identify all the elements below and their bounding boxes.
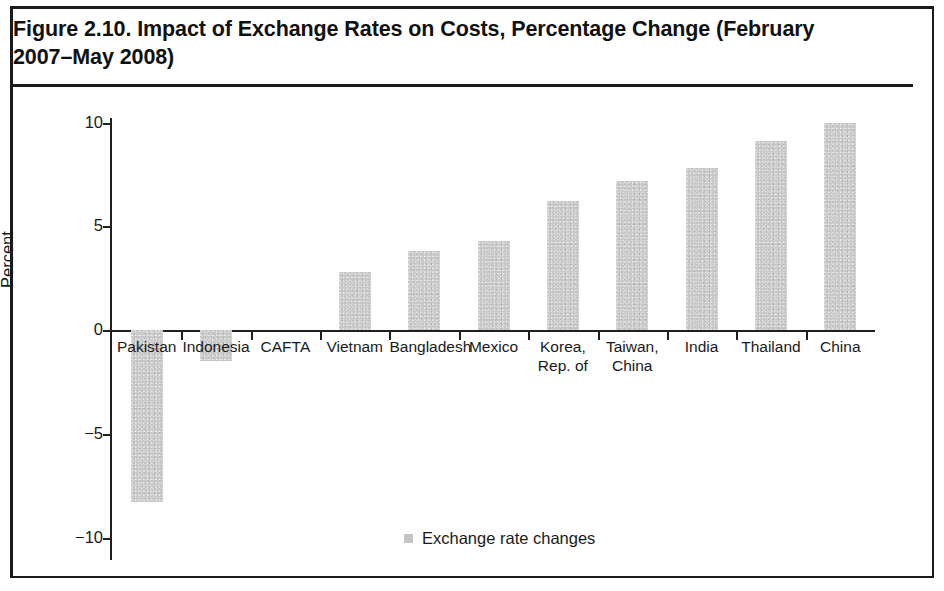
x-axis-category-label: Korea, Rep. of xyxy=(528,338,597,375)
chart-legend: Exchange rate changes xyxy=(404,529,595,548)
x-axis-category-label: Taiwan, China xyxy=(598,338,667,375)
y-axis-title: Percent xyxy=(0,231,17,288)
y-tick-mark xyxy=(103,538,111,540)
y-tick-label-text: −10 xyxy=(59,528,103,547)
x-axis-category-label: Pakistan xyxy=(112,338,181,357)
y-tick-label-text: 5 xyxy=(59,216,103,235)
y-tick-label-text: 0 xyxy=(59,320,103,339)
x-axis-category-label: Mexico xyxy=(459,338,528,357)
bar xyxy=(686,168,718,330)
bar xyxy=(824,123,856,331)
x-axis-category-label: China xyxy=(806,338,875,357)
bar xyxy=(408,251,440,330)
x-axis-category-label: Bangladesh xyxy=(389,338,458,357)
x-axis-category-label: Indonesia xyxy=(181,338,250,357)
y-tick-label-text: 10 xyxy=(59,113,103,132)
bar xyxy=(547,201,579,330)
x-axis-category-label: India xyxy=(667,338,736,357)
legend-label: Exchange rate changes xyxy=(422,529,595,548)
y-tick-label-text: −5 xyxy=(59,424,103,443)
x-axis-category-label: Vietnam xyxy=(320,338,389,357)
bar xyxy=(339,272,371,330)
bar xyxy=(478,241,510,330)
legend-swatch-icon xyxy=(404,534,413,543)
y-tick-mark xyxy=(103,226,111,228)
y-tick-mark xyxy=(103,330,111,332)
y-tick-mark xyxy=(103,123,111,125)
x-axis-category-label: Thailand xyxy=(736,338,805,357)
bar-chart: Percent 1050−5−10 PakistanIndonesiaCAFTA… xyxy=(0,0,924,572)
bar xyxy=(616,181,648,330)
y-tick-mark xyxy=(103,434,111,436)
x-axis-category-label: CAFTA xyxy=(251,338,320,357)
bar xyxy=(755,141,787,330)
